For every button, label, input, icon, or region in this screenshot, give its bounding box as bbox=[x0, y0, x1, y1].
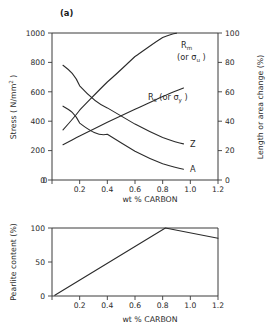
top-right-yticks: 100 80 60 40 20 0 bbox=[218, 29, 240, 185]
top-y2tick-80: 80 bbox=[225, 58, 235, 67]
curve-z bbox=[63, 65, 184, 144]
top-y2tick-20: 20 bbox=[225, 146, 235, 155]
bottom-chart: 100 50 0 0.2 0.4 0.6 0.8 1.0 1.2 bbox=[9, 223, 224, 324]
curve-a bbox=[63, 106, 184, 169]
bottom-yaxis-title: Pearlite content (%) bbox=[9, 223, 18, 301]
curve-label-rs-or: (or bbox=[157, 92, 174, 102]
bottom-ytick-50: 50 bbox=[35, 258, 45, 267]
top-ytick-800: 800 bbox=[31, 58, 46, 67]
top-xtick-02: 0.2 bbox=[74, 185, 86, 194]
bottom-ytick-0: 0 bbox=[40, 292, 45, 301]
bottom-xtick-12: 1.2 bbox=[212, 301, 224, 310]
top-ytick-200: 200 bbox=[31, 146, 46, 155]
figure-container: (a) 1000 800 600 400 200 0 bbox=[0, 0, 275, 333]
top-y2tick-60: 60 bbox=[225, 88, 235, 97]
top-xtick-08: 0.8 bbox=[157, 185, 169, 194]
top-ytick-1000: 1000 bbox=[26, 29, 45, 38]
curve-label-rm-close: ) bbox=[200, 52, 206, 62]
top-left-yticks: 1000 800 600 400 200 0 bbox=[26, 29, 52, 185]
top-xtick-12: 1.2 bbox=[212, 185, 224, 194]
top-xaxis-title: wt % CARBON bbox=[122, 195, 177, 204]
top-y2tick-40: 40 bbox=[225, 117, 235, 126]
curve-label-rs-close: ) bbox=[182, 92, 188, 102]
top-xticks: 0 0.2 0.4 0.6 0.8 1.0 1.2 bbox=[43, 176, 225, 194]
bottom-ytick-100: 100 bbox=[31, 224, 46, 233]
top-yaxis-title: Stress ( N/mm2 ) bbox=[8, 75, 18, 140]
top-yaxis-title-group: Stress ( N/mm2 ) bbox=[8, 75, 18, 140]
top-xtick-10: 1.0 bbox=[184, 185, 196, 194]
top-ytick-400: 400 bbox=[31, 117, 46, 126]
bottom-xtick-08: 0.8 bbox=[157, 301, 169, 310]
curve-label-rm-sub: m bbox=[187, 45, 192, 51]
curve-pearlite bbox=[55, 228, 218, 295]
top-xtick-06: 0.6 bbox=[129, 185, 141, 194]
panel-label-a: (a) bbox=[60, 8, 73, 18]
curve-label-z: Z bbox=[190, 139, 196, 149]
top-y2tick-0: 0 bbox=[225, 176, 230, 185]
top-xtick-0: 0 bbox=[43, 176, 48, 185]
top-ytick-600: 600 bbox=[31, 88, 46, 97]
top-yaxis-title-close: ) bbox=[9, 75, 18, 81]
bottom-xtick-04: 0.4 bbox=[101, 301, 113, 310]
bottom-xtick-10: 1.0 bbox=[184, 301, 196, 310]
figure-svg: (a) 1000 800 600 400 200 0 bbox=[0, 0, 275, 333]
curve-label-rm-line2: (or σu ) bbox=[177, 52, 206, 63]
bottom-xtick-02: 0.2 bbox=[74, 301, 86, 310]
curve-label-rs: Rs (or σy ) bbox=[148, 92, 188, 104]
curve-label-a: A bbox=[190, 164, 196, 174]
top-y2axis-title-group: Length or area change (%) bbox=[256, 55, 265, 159]
bottom-xticks: 0.2 0.4 0.6 0.8 1.0 1.2 bbox=[52, 296, 224, 310]
top-y2axis-title: Length or area change (%) bbox=[256, 55, 265, 159]
top-chart: (a) 1000 800 600 400 200 0 bbox=[8, 8, 265, 204]
bottom-xaxis-title: wt % CARBON bbox=[122, 315, 177, 324]
curve-label-rm: Rm bbox=[181, 40, 192, 51]
curve-label-rm-or: (or bbox=[177, 52, 191, 62]
bottom-yaxis-title-group: Pearlite content (%) bbox=[9, 223, 18, 301]
bottom-yticks: 100 50 0 bbox=[31, 224, 53, 301]
top-y2tick-100: 100 bbox=[225, 29, 240, 38]
top-yaxis-title-main: Stress ( N/mm bbox=[9, 84, 18, 140]
bottom-xtick-06: 0.6 bbox=[129, 301, 141, 310]
top-xtick-04: 0.4 bbox=[101, 185, 113, 194]
